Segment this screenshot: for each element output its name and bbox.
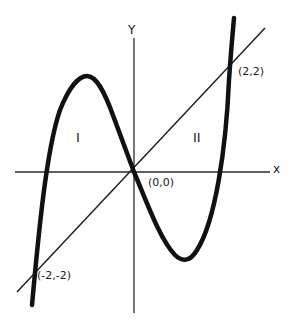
region-label-i: I xyxy=(76,130,80,145)
y-axis-label: Y xyxy=(127,23,136,37)
diagram: Y x I II (-2,-2) (0,0) (2,2) xyxy=(0,0,294,322)
point-label-origin: (0,0) xyxy=(148,176,174,189)
point-label-neg2-neg2: (-2,-2) xyxy=(37,269,71,282)
region-label-ii: II xyxy=(193,130,201,145)
point-label-2-2: (2,2) xyxy=(238,65,264,78)
cubic-curve xyxy=(32,18,234,305)
x-axis-label: x xyxy=(273,162,280,176)
